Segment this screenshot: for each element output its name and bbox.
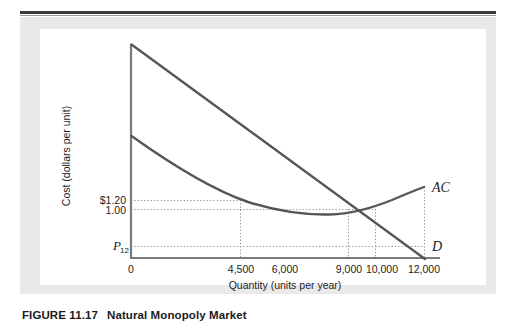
curve-label-d: D	[431, 239, 442, 254]
x-tick-label-10000: 10,000	[366, 263, 398, 275]
svg-text:12: 12	[120, 246, 129, 255]
x-tick-label-6000: 6,000	[272, 263, 298, 275]
x-axis-title: Quantity (units per year)	[229, 279, 342, 291]
figure-container: AC D $1.20 1.00 P 12 0 4,500 6,000 9,000…	[0, 0, 522, 330]
demand-curve	[132, 45, 426, 260]
natural-monopoly-chart: AC D $1.20 1.00 P 12 0 4,500 6,000 9,000…	[0, 0, 522, 330]
x-tick-label-12000: 12,000	[408, 263, 440, 275]
y-axis-title: Cost (dollars per unit)	[60, 106, 72, 206]
figure-number: FIGURE 11.17	[22, 309, 98, 321]
average-cost-curve	[132, 136, 425, 215]
x-tick-label-4500: 4,500	[228, 263, 254, 275]
figure-caption: FIGURE 11.17Natural Monopoly Market	[22, 309, 247, 321]
x-tick-label-0: 0	[128, 263, 134, 275]
curve-label-ac: AC	[431, 180, 451, 195]
y-tick-label-p12: P 12	[112, 238, 129, 255]
x-tick-label-9000: 9,000	[336, 263, 362, 275]
y-tick-label-100: 1.00	[106, 204, 127, 216]
figure-title: Natural Monopoly Market	[107, 309, 247, 321]
dotted-guides	[131, 187, 425, 258]
